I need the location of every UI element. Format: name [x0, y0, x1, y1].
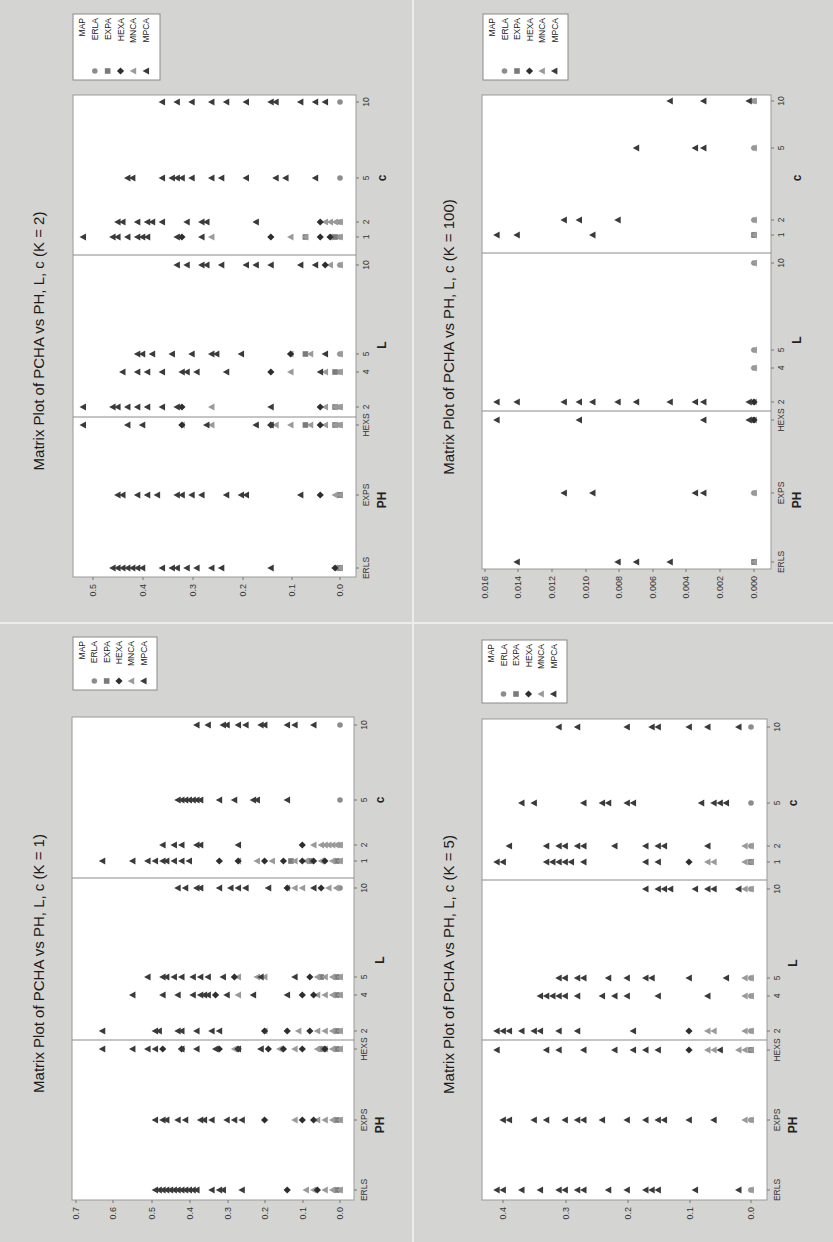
x-tick-label: HEXS — [359, 1037, 369, 1060]
x-tick-label: 5 — [776, 347, 786, 352]
x-tick-label: 2 — [772, 843, 782, 848]
x-tick-label: 2 — [776, 399, 786, 404]
x-tick-label: EXPS — [359, 1108, 369, 1131]
legend-label: MNCA — [537, 18, 547, 43]
data-point-erla — [337, 797, 343, 803]
legend-label: ERLA — [89, 641, 99, 664]
x-tick-label: 10 — [359, 883, 369, 893]
x-tick-label: 1 — [772, 859, 782, 864]
x-tick-label: 10 — [361, 97, 371, 107]
y-tick-label: 0.016 — [480, 576, 490, 599]
y-tick-label: 0.1 — [685, 1207, 695, 1220]
y-tick-label: 0.006 — [648, 576, 658, 599]
x-tick-label: HEXS — [772, 1038, 782, 1061]
data-point-erla — [337, 722, 343, 728]
x-tick-label: 4 — [772, 993, 782, 998]
x-tick-label: ERLS — [359, 1179, 369, 1202]
data-point-erla — [748, 724, 754, 730]
y-tick-label: 0.0 — [335, 584, 345, 597]
legend-title: MAP — [77, 18, 87, 37]
legend-label: HEXA — [116, 18, 126, 41]
x-tick-label: 5 — [359, 797, 369, 802]
legend-label: MPCA — [141, 18, 151, 43]
axis-title-ph: PH — [790, 492, 804, 509]
y-tick-label: 0.010 — [581, 576, 591, 599]
x-tick-label: 10 — [776, 96, 786, 106]
x-tick-label: ERLS — [776, 551, 786, 574]
y-tick-label: 0.1 — [287, 584, 297, 597]
legend-marker-erla — [502, 68, 508, 74]
y-tick-label: 0.3 — [188, 584, 198, 597]
x-tick-label: 5 — [361, 175, 371, 180]
axis-title-ph: PH — [373, 1117, 387, 1134]
x-tick-label: 10 — [776, 258, 786, 268]
y-tick-label: 0.4 — [138, 584, 148, 597]
chart-title: Matrix Plot of PCHA vs PH, L, c (K = 2) — [30, 212, 47, 471]
chart-title: Matrix Plot of PCHA vs PH, L, c (K = 5) — [440, 835, 457, 1094]
x-tick-label: 2 — [772, 1028, 782, 1033]
legend-label: EXPA — [511, 644, 521, 666]
y-tick-label: 0.004 — [681, 576, 691, 599]
y-tick-label: 0.0 — [335, 1207, 345, 1220]
legend-label: EXPA — [102, 641, 112, 663]
legend-title: MAP — [487, 18, 497, 37]
legend-label: ERLA — [500, 18, 510, 41]
x-tick-label: 5 — [359, 974, 369, 979]
x-tick-label: EXPS — [772, 1108, 782, 1131]
legend-label: MPCA — [550, 18, 560, 43]
legend: MAPERLAEXPAHEXAMNCAMPCA — [483, 14, 568, 80]
axis-title-l: L — [786, 959, 800, 966]
legend-label: HEXA — [525, 18, 535, 41]
axis-title-ph: PH — [375, 492, 389, 509]
y-tick-label: 0.4 — [498, 1207, 508, 1220]
panel-k2: 0.50.40.30.20.10.01052110542HEXSEXPSERLS — [73, 95, 371, 597]
legend-title: MAP — [77, 641, 87, 660]
axis-title-c: c — [786, 799, 800, 806]
x-tick-label: HEXS — [361, 413, 371, 436]
axis-title-l: L — [373, 956, 387, 963]
x-tick-label: 4 — [361, 369, 371, 374]
y-tick-label: 0.2 — [238, 584, 248, 597]
y-tick-label: 0.002 — [715, 576, 725, 599]
y-tick-label: 0.3 — [223, 1207, 233, 1220]
x-tick-label: ERLS — [361, 557, 371, 580]
legend-label: EXPA — [103, 18, 113, 40]
figure-canvas: 0.50.40.30.20.10.01052110542HEXSEXPSERLS… — [0, 0, 833, 1242]
legend-marker-expa — [514, 68, 520, 74]
legend-marker-expa — [513, 691, 519, 697]
legend-label: ERLA — [499, 644, 509, 667]
chart-title: Matrix Plot of PCHA vs PH, L, c (K = 100… — [440, 199, 457, 475]
plot-frame — [482, 95, 771, 569]
x-tick-label: EXPS — [361, 483, 371, 506]
y-tick-label: 0.5 — [88, 584, 98, 597]
x-tick-label: ERLS — [772, 1179, 782, 1202]
x-tick-label: 10 — [772, 722, 782, 732]
x-tick-label: 10 — [772, 884, 782, 894]
x-tick-label: HEXS — [776, 408, 786, 431]
y-tick-label: 0.4 — [185, 1207, 195, 1220]
x-tick-label: 1 — [776, 232, 786, 237]
legend-marker-erla — [92, 678, 98, 684]
y-tick-label: 0.3 — [561, 1207, 571, 1220]
legend-title: MAP — [486, 644, 496, 663]
y-tick-label: 0.5 — [147, 1207, 157, 1220]
axis-title-ph: PH — [786, 1117, 800, 1134]
data-point-erla — [337, 175, 343, 181]
legend-label: MPCA — [549, 644, 559, 669]
axis-title-l: L — [790, 336, 804, 343]
legend: MAPERLAEXPAHEXAMNCAMPCA — [73, 637, 157, 690]
y-tick-label: 0.1 — [298, 1207, 308, 1220]
plot-frame — [482, 719, 767, 1200]
legend-marker-expa — [104, 678, 110, 684]
legend: MAPERLAEXPAHEXAMNCAMPCA — [73, 14, 160, 80]
x-tick-label: 1 — [359, 858, 369, 863]
panel-k5: 0.40.30.20.10.01052110542HEXSEXPSERLS — [482, 719, 782, 1220]
legend-label: HEXA — [524, 644, 534, 667]
x-tick-label: 4 — [776, 365, 786, 370]
axis-title-c: c — [375, 174, 389, 181]
legend-label: ERLA — [90, 18, 100, 41]
y-tick-label: 0.2 — [623, 1207, 633, 1220]
x-tick-label: 10 — [359, 720, 369, 730]
y-tick-label: 0.7 — [71, 1207, 81, 1220]
data-point-erla — [337, 99, 343, 105]
